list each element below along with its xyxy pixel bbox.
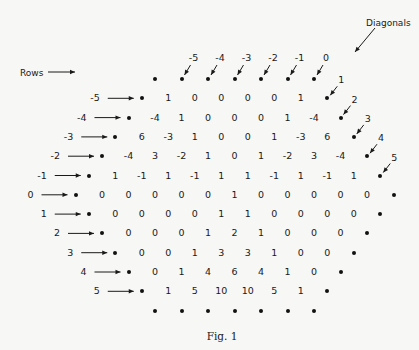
grid-value: 0: [311, 190, 317, 200]
top-dot: [153, 77, 157, 81]
grid-value: -4: [124, 151, 133, 161]
row-left-dot: [140, 96, 144, 100]
diagonal-label: -4: [215, 53, 224, 63]
grid-value: -3: [296, 132, 305, 142]
grid-value: 0: [218, 94, 224, 104]
row-right-dot: [392, 193, 396, 197]
grid-value: 1: [205, 151, 211, 161]
grid-value: 0: [125, 229, 131, 239]
grid-value: -1: [270, 171, 279, 181]
row-label: 0: [27, 190, 33, 200]
row-label: 2: [54, 229, 60, 239]
row-left-dot: [113, 135, 117, 139]
row-left-dot: [74, 193, 78, 197]
row-right-dot: [352, 251, 356, 255]
row-right-dot: [325, 96, 329, 100]
diagonal-label: -1: [295, 53, 304, 63]
top-dot: [233, 77, 237, 81]
grid-value: 1: [271, 132, 277, 142]
grid-value: 0: [139, 209, 145, 219]
grid-value: -1: [190, 171, 199, 181]
grid-value: -1: [323, 171, 332, 181]
grid-value: 0: [284, 229, 290, 239]
row-label: -5: [90, 94, 99, 104]
grid-value: 0: [245, 132, 251, 142]
grid-value: 1: [218, 209, 224, 219]
grid-value: -4: [150, 113, 159, 123]
row-right-dot: [352, 135, 356, 139]
row-left-dot: [100, 231, 104, 235]
grid-value: 0: [192, 209, 198, 219]
bottom-dot: [286, 309, 290, 313]
grid-value: 3: [311, 151, 317, 161]
grid-value: 4: [258, 267, 264, 277]
row-label: 3: [67, 248, 73, 258]
grid-value: 1: [298, 94, 304, 104]
grid-value: 1: [205, 229, 211, 239]
figure-caption: Fig. 1: [207, 330, 238, 342]
grid-value: 0: [231, 113, 237, 123]
grid-value: 1: [178, 113, 184, 123]
grid-value: 0: [152, 190, 158, 200]
grid-value: 1: [284, 267, 290, 277]
pascal-triangle-figure: Rows Diagonals Fig. 1 100001-5-410001-4-…: [0, 0, 419, 350]
grid-value: 0: [311, 229, 317, 239]
row-left-dot: [127, 270, 131, 274]
grid-value: 0: [258, 190, 264, 200]
grid-value: 0: [311, 267, 317, 277]
grid-value: 0: [165, 209, 171, 219]
grid-value: 3: [152, 151, 158, 161]
grid-value: 5: [192, 287, 198, 297]
grid-value: 3: [218, 248, 224, 258]
row-right-dot: [378, 212, 382, 216]
grid-value: 1: [192, 132, 198, 142]
grid-value: 1: [165, 171, 171, 181]
diagonal-label: 2: [351, 95, 357, 105]
row-left-dot: [100, 154, 104, 158]
grid-value: 0: [205, 190, 211, 200]
grid-value: 0: [112, 209, 118, 219]
grid-value: 0: [271, 209, 277, 219]
grid-value: 1: [192, 248, 198, 258]
row-right-dot: [325, 289, 329, 293]
grid-value: 1: [284, 113, 290, 123]
row-right-dot: [339, 116, 343, 120]
grid-value: 1: [178, 267, 184, 277]
grid-value: 0: [205, 113, 211, 123]
grid-value: 0: [178, 229, 184, 239]
grid-value: 10: [242, 287, 254, 297]
diagonal-label: -5: [189, 53, 198, 63]
grid-value: 0: [152, 267, 158, 277]
bottom-dot: [206, 309, 210, 313]
grid-value: 0: [152, 229, 158, 239]
diagonals-title: Diagonals: [366, 19, 411, 28]
grid-value: -4: [309, 113, 318, 123]
diagonal-label: 3: [365, 114, 371, 124]
row-left-dot: [140, 289, 144, 293]
row-right-dot: [339, 270, 343, 274]
row-left-dot: [113, 251, 117, 255]
grid-value: 0: [351, 209, 357, 219]
diagonal-label: -2: [268, 53, 277, 63]
diagonal-label: 1: [338, 76, 344, 86]
top-dot: [180, 77, 184, 81]
row-label: 1: [41, 209, 47, 219]
diagonal-label: 5: [391, 153, 397, 163]
bottom-dot: [180, 309, 184, 313]
bottom-dot: [233, 309, 237, 313]
grid-value: 0: [298, 248, 304, 258]
grid-value: -3: [164, 132, 173, 142]
rows-title: Rows: [20, 69, 43, 78]
grid-value: 1: [298, 287, 304, 297]
grid-value: 0: [99, 190, 105, 200]
grid-value: 1: [218, 171, 224, 181]
grid-value: 0: [218, 132, 224, 142]
row-label: -4: [77, 113, 86, 123]
bottom-dot: [259, 309, 263, 313]
row-left-dot: [87, 212, 91, 216]
grid-value: 1: [165, 287, 171, 297]
grid-value: 6: [231, 267, 237, 277]
grid-value: 0: [192, 94, 198, 104]
top-dot: [206, 77, 210, 81]
grid-value: 0: [125, 190, 131, 200]
